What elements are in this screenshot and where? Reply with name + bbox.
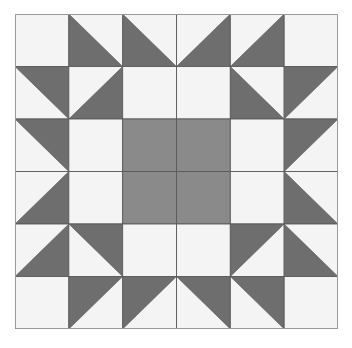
quilt-cell (230, 67, 284, 120)
quilt-cell (123, 172, 177, 225)
quilt-cell (69, 277, 123, 330)
quilt-cell (69, 14, 123, 67)
quilt-cell (123, 14, 177, 67)
quilt-block-diagram (15, 14, 338, 329)
quilt-cell (177, 119, 231, 172)
quilt-cell (69, 67, 123, 120)
quilt-cell (15, 67, 69, 120)
quilt-cell (230, 14, 284, 67)
quilt-cell (284, 14, 338, 67)
quilt-cell (284, 119, 338, 172)
quilt-svg (15, 14, 338, 329)
quilt-cell (284, 67, 338, 120)
quilt-cell (177, 224, 231, 277)
quilt-cell (230, 172, 284, 225)
quilt-cell (69, 224, 123, 277)
quilt-cell (15, 172, 69, 225)
quilt-cell (177, 67, 231, 120)
quilt-cell (177, 277, 231, 330)
quilt-cell (15, 119, 69, 172)
quilt-cell (177, 172, 231, 225)
quilt-cell (284, 172, 338, 225)
quilt-cell (15, 224, 69, 277)
quilt-cell (15, 14, 69, 67)
quilt-cell (123, 67, 177, 120)
quilt-cell (69, 119, 123, 172)
quilt-cell (284, 277, 338, 330)
quilt-cell (69, 172, 123, 225)
quilt-cell (284, 224, 338, 277)
quilt-cell (15, 277, 69, 330)
quilt-cell (230, 277, 284, 330)
quilt-cell (123, 277, 177, 330)
quilt-cell (123, 224, 177, 277)
quilt-cell (123, 119, 177, 172)
quilt-cell (230, 224, 284, 277)
quilt-cell (177, 14, 231, 67)
quilt-cell (230, 119, 284, 172)
